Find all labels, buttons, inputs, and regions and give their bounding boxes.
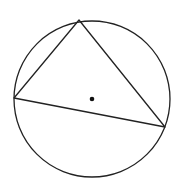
inscribed-triangle <box>14 20 165 127</box>
diagram-canvas <box>0 0 183 192</box>
center-point <box>90 97 95 102</box>
